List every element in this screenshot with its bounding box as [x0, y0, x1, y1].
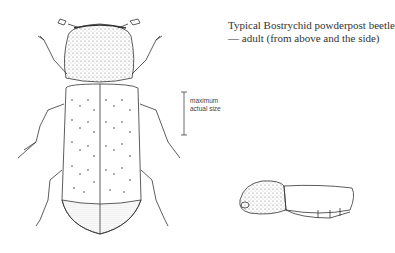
scale-bar [181, 92, 187, 135]
beetle-lateral-view [240, 181, 354, 218]
beetle-dorsal-view [18, 19, 180, 234]
pronotum [64, 24, 133, 82]
elytron-side [284, 185, 354, 213]
pronotum-side [240, 181, 286, 214]
